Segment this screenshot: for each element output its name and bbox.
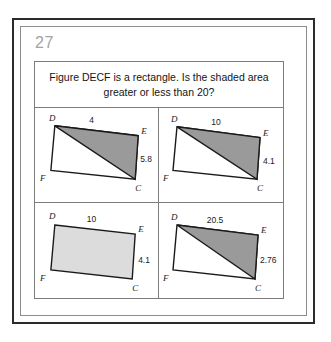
measure-label-side: 4.1 (138, 255, 150, 265)
vertex-label-E: E (137, 224, 144, 234)
measure-label-top: 20.5 (207, 215, 224, 225)
measure-label-top: 4 (89, 115, 94, 125)
vertex-label-E: E (262, 128, 269, 138)
vertex-label-E: E (260, 225, 267, 235)
measure-label-top: 10 (87, 214, 97, 224)
vertex-label-F: F (162, 173, 169, 183)
figure-diagram-bottom-right: D E F C 20.5 2.76 (159, 203, 283, 298)
vertex-label-F: F (39, 273, 46, 283)
figure-grid: D E F C 4 5.8 D E F (35, 108, 283, 298)
vertex-label-D: D (170, 212, 178, 222)
worksheet-inner-frame: 27 Figure DECF is a rectangle. Is the sh… (20, 26, 307, 316)
vertex-label-C: C (135, 183, 142, 193)
vertex-label-F: F (39, 173, 46, 183)
figure-cell-bottom-right: D E F C 20.5 2.76 (159, 203, 283, 298)
figure-cell-bottom-left: D E F C 10 4.1 (35, 203, 159, 298)
measure-label-side: 4.1 (263, 156, 275, 166)
measure-label-top: 10 (211, 117, 221, 127)
vertex-label-C: C (132, 283, 139, 293)
figure-cell-top-right: D E F C 10 4.1 (159, 108, 283, 203)
vertex-label-C: C (255, 283, 262, 293)
vertex-label-C: C (257, 183, 264, 193)
figure-diagram-top-left: D E F C 4 5.8 (35, 108, 158, 202)
measure-label-side: 2.76 (260, 255, 277, 265)
prompt-cell: Figure DECF is a rectangle. Is the shade… (35, 62, 283, 108)
shaded-rectangle-DECF (51, 225, 135, 279)
vertex-label-D: D (48, 211, 56, 221)
vertex-label-F: F (162, 273, 169, 283)
vertex-label-D: D (170, 114, 178, 124)
measure-label-side: 5.8 (140, 154, 152, 164)
vertex-label-E: E (140, 126, 147, 136)
figure-diagram-top-right: D E F C 10 4.1 (159, 108, 283, 202)
problem-card: Figure DECF is a rectangle. Is the shade… (34, 61, 284, 299)
question-prompt-text: Figure DECF is a rectangle. Is the shade… (43, 70, 275, 98)
worksheet-outer-frame: 27 Figure DECF is a rectangle. Is the sh… (12, 18, 315, 324)
figure-diagram-bottom-left: D E F C 10 4.1 (35, 203, 158, 298)
figure-cell-top-left: D E F C 4 5.8 (35, 108, 159, 203)
vertex-label-D: D (48, 113, 56, 123)
question-number: 27 (35, 35, 54, 51)
